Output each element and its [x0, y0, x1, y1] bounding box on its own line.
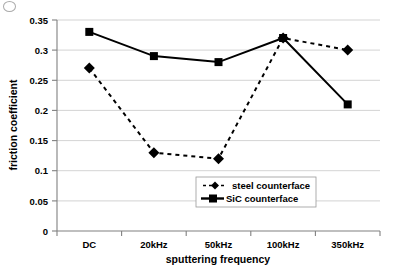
friction-coefficient-line-chart: 0.35 0.3 0.25 0.2 0.15 0.1 0.05 0 DC 20k…	[0, 0, 395, 277]
x-tick-label-100khz: 100kHz	[267, 239, 300, 250]
x-tick-label-dc: DC	[82, 239, 96, 250]
data-point-sic-dc	[85, 28, 93, 36]
data-point-sic-20khz	[150, 52, 158, 60]
legend-label-steel-counterface: steel counterface	[232, 180, 310, 191]
data-point-sic-50khz	[215, 58, 223, 66]
legend-label-sic-counterface: SiC counterface	[226, 193, 298, 204]
y-tick-label-0.2: 0.2	[35, 105, 48, 116]
y-axis-tick-labels: 0.35 0.3 0.25 0.2 0.15 0.1 0.05 0	[30, 15, 49, 237]
chart-legend: steel counterface SiC counterface	[196, 177, 316, 207]
y-tick-label-0.1: 0.1	[35, 165, 49, 176]
y-tick-label-0.15: 0.15	[30, 135, 49, 146]
y-tick-label-0: 0	[43, 226, 48, 237]
y-axis-title: friction coefficient	[7, 79, 19, 171]
x-tick-label-20khz: 20kHz	[140, 239, 168, 250]
y-axis-ticks	[52, 20, 57, 231]
x-axis-title: sputtering frequency	[166, 253, 271, 265]
scan-artifact-mark	[3, 1, 16, 12]
y-tick-label-0.05: 0.05	[30, 196, 49, 207]
x-axis-ticks	[57, 231, 380, 236]
y-tick-label-0.35: 0.35	[30, 15, 49, 26]
chart-container: 0.35 0.3 0.25 0.2 0.15 0.1 0.05 0 DC 20k…	[0, 0, 395, 277]
y-tick-label-0.25: 0.25	[30, 75, 49, 86]
data-point-sic-350khz	[344, 100, 352, 108]
y-tick-label-0.3: 0.3	[35, 45, 48, 56]
x-tick-label-350khz: 350kHz	[331, 239, 364, 250]
legend-marker-square-icon	[209, 195, 217, 203]
x-tick-label-50khz: 50kHz	[205, 239, 233, 250]
x-axis-tick-labels: DC 20kHz 50kHz 100kHz 350kHz	[82, 239, 364, 250]
